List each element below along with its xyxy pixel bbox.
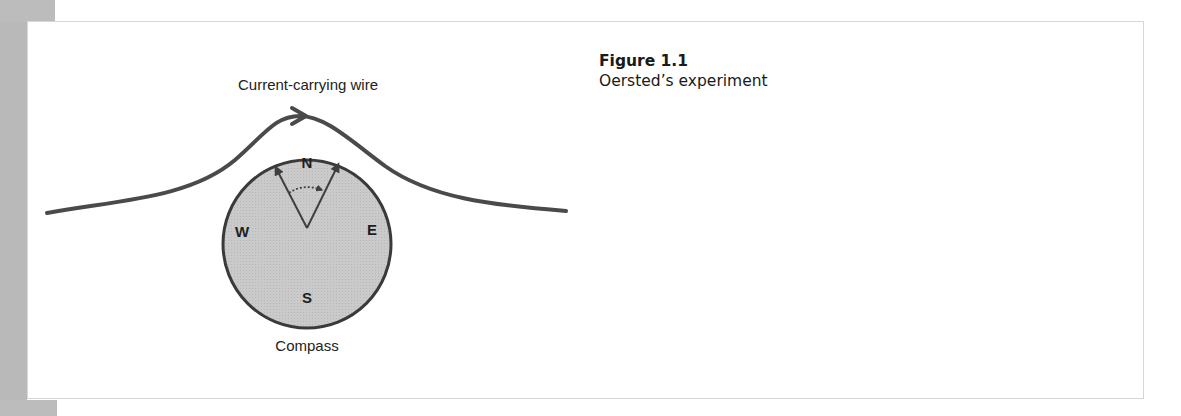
compass-north-label: N xyxy=(302,154,313,171)
figure-caption: Figure 1.1 Oersted’s experiment xyxy=(599,51,768,91)
compass-west-label: W xyxy=(235,223,250,240)
compass-south-label: S xyxy=(302,289,312,306)
compass-label: Compass xyxy=(275,337,338,354)
compass-east-label: E xyxy=(367,221,377,238)
figure-number: Figure 1.1 xyxy=(599,51,768,71)
wire-label: Current-carrying wire xyxy=(238,76,378,93)
compass: N S E W xyxy=(223,154,391,328)
textbook-page: N S E W Current-carrying wire Compass Fi… xyxy=(0,0,1181,416)
figure-title: Oersted’s experiment xyxy=(599,71,768,91)
oersted-diagram: N S E W Current-carrying wire Compass xyxy=(0,0,1181,416)
